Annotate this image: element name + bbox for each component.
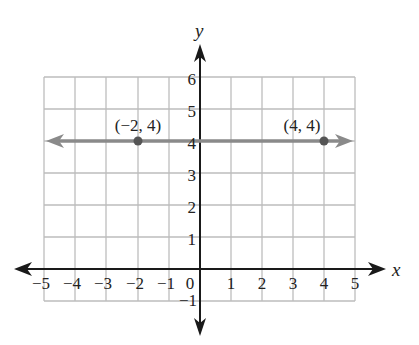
y-tick: 1 <box>188 230 197 249</box>
y-tick: 2 <box>188 198 197 217</box>
y-tick: 6 <box>188 70 197 89</box>
point-label-4-4: (4, 4) <box>284 116 321 135</box>
coordinate-plane: (−2, 4) (4, 4) x y −5 −4 −3 −2 −1 0 1 2 … <box>0 0 419 345</box>
x-tick: −4 <box>63 274 82 293</box>
point-4-4 <box>320 137 329 146</box>
x-axis-label: x <box>391 259 401 280</box>
x-tick: −2 <box>126 274 144 293</box>
y-tick: 4 <box>188 134 197 153</box>
x-tick: 5 <box>351 274 360 293</box>
x-tick: 4 <box>320 274 329 293</box>
x-tick: 2 <box>258 274 267 293</box>
x-tick: 1 <box>227 274 236 293</box>
x-tick: 3 <box>289 274 298 293</box>
y-tick: −1 <box>179 291 197 310</box>
y-tick: 3 <box>188 166 197 185</box>
x-tick: −5 <box>32 274 50 293</box>
point-neg2-4 <box>134 137 143 146</box>
y-tick: 5 <box>188 102 197 121</box>
y-axis-label: y <box>193 20 204 41</box>
x-tick: −3 <box>94 274 112 293</box>
point-label-neg2-4: (−2, 4) <box>115 116 161 135</box>
x-tick: −1 <box>157 274 175 293</box>
